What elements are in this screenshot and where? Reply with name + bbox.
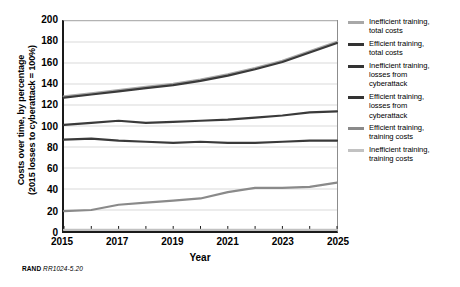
legend-label: Inefficient training, losses from cybera… — [369, 61, 429, 89]
legend-item-6: Inefficient training, training costs — [348, 145, 460, 164]
legend-item-1: Inefficient training, total costs — [348, 17, 460, 36]
y-tick-label: 180 — [32, 36, 58, 46]
legend-item-5: Efficient training, training costs — [348, 123, 460, 142]
plot-area — [62, 20, 338, 233]
legend-item-4: Efficient training, losses from cyberatt… — [348, 92, 460, 120]
legend-swatch-icon — [348, 127, 364, 130]
series-line-3 — [64, 111, 337, 125]
x-tick-label: 2021 — [216, 236, 238, 248]
y-tick-label: 120 — [32, 100, 58, 110]
legend-label: Efficient training, total costs — [369, 39, 424, 58]
series-line-4 — [64, 139, 337, 143]
y-tick-label: 20 — [32, 207, 58, 217]
y-tick-label: 160 — [32, 58, 58, 68]
x-tick-label: 2017 — [106, 236, 128, 248]
y-tick-label: 60 — [32, 164, 58, 174]
legend-swatch-icon — [348, 149, 364, 152]
x-tick-label: 2019 — [161, 236, 183, 248]
y-axis-ticks: 020406080100120140160180200 — [28, 20, 58, 233]
legend-item-3: Inefficient training, losses from cybera… — [348, 61, 460, 89]
y-tick-label: 100 — [32, 122, 58, 132]
x-axis-title: Year — [62, 252, 338, 263]
source-note-prefix: RAND — [22, 265, 43, 272]
legend-swatch-icon — [348, 96, 364, 99]
x-axis-ticks: 201520172019202120232025 — [62, 236, 338, 250]
y-tick-label: 80 — [32, 143, 58, 153]
chart-legend: Inefficient training, total costsEfficie… — [348, 17, 460, 167]
source-note-id: RR1024-5.20 — [43, 265, 83, 272]
figure-container: Costs over time, by percentage (2015 los… — [0, 0, 460, 287]
series-line-2 — [64, 43, 337, 98]
y-tick-label: 200 — [32, 15, 58, 25]
legend-label: Efficient training, training costs — [369, 123, 424, 142]
x-tick-label: 2025 — [327, 236, 349, 248]
legend-item-2: Efficient training, total costs — [348, 39, 460, 58]
x-tick-label: 2015 — [51, 236, 73, 248]
legend-label: Inefficient training, total costs — [369, 17, 429, 36]
y-axis-title-line1: Costs over time, by percentage — [16, 55, 26, 186]
series-line-1 — [64, 42, 337, 97]
legend-swatch-icon — [348, 65, 364, 68]
y-tick-label: 140 — [32, 79, 58, 89]
chart-svg — [64, 21, 337, 231]
series-line-5 — [64, 183, 337, 211]
legend-swatch-icon — [348, 43, 364, 46]
y-tick-label: 40 — [32, 185, 58, 195]
legend-label: Efficient training, losses from cyberatt… — [369, 92, 424, 120]
legend-swatch-icon — [348, 21, 364, 24]
legend-label: Inefficient training, training costs — [369, 145, 429, 164]
source-note: RAND RR1024-5.20 — [22, 265, 83, 272]
x-tick-label: 2023 — [272, 236, 294, 248]
